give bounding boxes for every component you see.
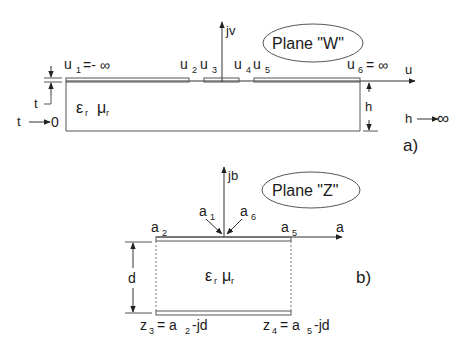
conformal-mapping-diagram: t t 0 h h ∞ jv u Plane "W" u 1 =- ∞ u 2 … <box>0 0 467 346</box>
caption-a: a) <box>403 136 418 155</box>
t-limit-value: 0 <box>51 114 59 130</box>
jb-axis-label: jb <box>227 168 238 183</box>
t-limit-var: t <box>17 114 21 129</box>
svg-text:r: r <box>231 276 234 286</box>
u6-label: u 6 = ∞ <box>347 56 388 75</box>
svg-text:5: 5 <box>265 65 270 75</box>
svg-text:u: u <box>64 56 72 72</box>
svg-text:ε: ε <box>76 99 83 116</box>
svg-text:a: a <box>240 203 248 219</box>
u1-label: u 1 =- ∞ <box>64 56 110 75</box>
svg-text:1: 1 <box>76 65 81 75</box>
u2-label: u 2 <box>180 56 197 75</box>
svg-text:5: 5 <box>292 228 297 238</box>
svg-text:-jd: -jd <box>314 317 330 333</box>
a6-label: a 6 <box>240 203 256 222</box>
permittivity-permeability-b: ε r μ r <box>205 267 234 286</box>
svg-text:5: 5 <box>307 326 312 336</box>
u5-label: u 5 <box>253 56 270 75</box>
svg-text:a: a <box>151 219 159 235</box>
plane-w-label: Plane "W" <box>272 35 344 52</box>
h-limit-value: ∞ <box>437 109 449 128</box>
svg-text:u: u <box>253 56 261 72</box>
svg-text:μ: μ <box>222 267 231 284</box>
diagram-a: t t 0 h h ∞ jv u Plane "W" u 1 =- ∞ u 2 … <box>17 22 449 155</box>
t-label: t <box>34 96 38 111</box>
svg-text:= ∞: = ∞ <box>366 57 388 73</box>
svg-text:2: 2 <box>162 228 167 238</box>
jv-axis-label: jv <box>225 23 236 38</box>
svg-text:1: 1 <box>210 212 215 222</box>
caption-b: b) <box>356 268 371 287</box>
svg-text:=- ∞: =- ∞ <box>83 57 110 73</box>
a2-label: a 2 <box>151 219 167 238</box>
u3-label: u 3 <box>200 56 217 75</box>
bottom-strip <box>156 311 291 315</box>
svg-text:3: 3 <box>212 65 217 75</box>
svg-text:a: a <box>199 203 207 219</box>
svg-text:2: 2 <box>192 65 197 75</box>
a5-label: a 5 <box>281 219 297 238</box>
plane-z-label: Plane "Z" <box>272 182 339 199</box>
z3-label: z 3 = a 2 -jd <box>140 317 208 336</box>
top-strip <box>156 237 291 241</box>
u-axis-label: u <box>405 62 412 77</box>
svg-text:u: u <box>200 56 208 72</box>
svg-text:ε: ε <box>205 267 212 284</box>
svg-text:2: 2 <box>185 326 190 336</box>
svg-text:r: r <box>85 108 88 118</box>
h-label: h <box>365 99 372 114</box>
svg-text:a: a <box>281 219 289 235</box>
svg-text:= a: = a <box>280 317 300 333</box>
svg-text:4: 4 <box>246 65 251 75</box>
svg-text:4: 4 <box>272 326 277 336</box>
svg-text:r: r <box>106 108 109 118</box>
permittivity-permeability-a: ε r μ r <box>76 99 109 118</box>
svg-text:z: z <box>140 317 147 333</box>
a-axis-label: a <box>336 219 344 235</box>
svg-text:= a: = a <box>157 317 177 333</box>
svg-text:u: u <box>347 56 355 72</box>
h-limit-var: h <box>405 111 412 126</box>
z4-label: z 4 = a 5 -jd <box>263 317 330 336</box>
u4-label: u 4 <box>234 56 251 75</box>
svg-text:6: 6 <box>358 65 363 75</box>
svg-text:r: r <box>214 276 217 286</box>
svg-text:3: 3 <box>149 326 154 336</box>
d-label: d <box>128 270 136 286</box>
svg-text:6: 6 <box>251 212 256 222</box>
substrate-box <box>66 82 360 131</box>
svg-text:z: z <box>263 317 270 333</box>
svg-text:u: u <box>234 56 242 72</box>
svg-text:u: u <box>180 56 188 72</box>
a6-pointer-arrow <box>227 219 242 234</box>
svg-text:-jd: -jd <box>192 317 208 333</box>
svg-text:μ: μ <box>97 99 106 116</box>
diagram-b: d jb a Plane "Z" a 1 a 6 a 2 a 5 ε r <box>125 167 371 336</box>
a1-label: a 1 <box>199 203 215 222</box>
